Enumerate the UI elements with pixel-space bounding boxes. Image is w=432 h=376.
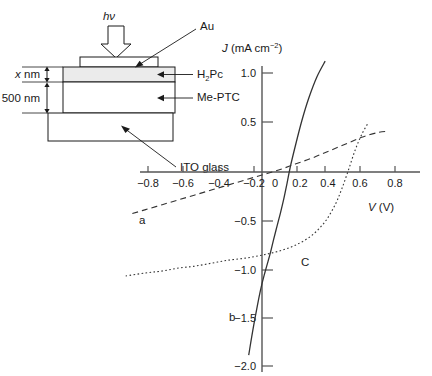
curve-b-label: b — [229, 311, 235, 323]
curve-c-label: C — [301, 256, 309, 268]
y-axis-title-sup: −2 — [270, 41, 279, 50]
curve-b-path — [249, 61, 325, 355]
label-au: Au — [200, 20, 214, 32]
y-tick-label-1.0: 1.0 — [241, 67, 256, 79]
y-axis-title-unit: (mA cm — [228, 42, 270, 54]
dimension-500-nm-label: 500 nm — [2, 92, 40, 104]
label-meptc: Me-PTC — [197, 91, 240, 103]
light-label: hν — [103, 10, 115, 22]
x-axis-title: V (V) — [368, 201, 394, 213]
x-tick-label-0.2: 0.2 — [292, 177, 307, 189]
curve-a-label: a — [139, 214, 146, 226]
x-tick-label--0.6: −0.6 — [172, 177, 194, 189]
device-schematic: hν x nm 500 nm — [2, 10, 240, 173]
light-arrow-icon — [101, 26, 131, 58]
curve-c-path — [126, 123, 369, 276]
figure-root: hν x nm 500 nm — [0, 0, 432, 376]
y-axis-title-tail: ) — [278, 42, 282, 54]
x-tick-label-0: 0 — [272, 177, 278, 189]
y-tick-label-0.5: 0.5 — [241, 116, 256, 128]
label-h2pc-rest: Pc — [209, 68, 223, 80]
y-tick-label--2.0: −2.0 — [234, 360, 256, 372]
y-axis-ticks — [262, 73, 273, 366]
y-tick-label--1.0: −1.0 — [234, 264, 256, 276]
dimension-500-nm — [44, 83, 49, 114]
layer-ito-glass — [48, 113, 173, 141]
label-h2pc-main: H — [197, 68, 205, 80]
label-ito-glass: ITO glass — [180, 161, 229, 173]
callout-line-au — [137, 29, 196, 66]
layer-au — [80, 57, 158, 67]
dimension-x-nm — [44, 67, 49, 83]
x-tick-label--0.4: −0.4 — [208, 177, 230, 189]
label-h2pc: H2Pc — [197, 68, 223, 83]
x-tick-label-0.6: 0.6 — [352, 177, 367, 189]
x-axis-title-unit: (V) — [376, 201, 395, 213]
x-tick-label-0.8: 0.8 — [387, 177, 402, 189]
x-tick-label-0.4: 0.4 — [320, 177, 335, 189]
dimension-x-nm-label: x nm — [14, 68, 40, 80]
x-tick-label--0.2: −0.2 — [243, 177, 265, 189]
x-tick-label--0.8: −0.8 — [137, 177, 159, 189]
dimension-x-rest: nm — [21, 68, 40, 80]
y-axis-title: J (mA cm−2) — [221, 41, 282, 54]
y-tick-label--0.5: −0.5 — [234, 215, 256, 227]
y-tick-label--1.5: −1.5 — [234, 312, 256, 324]
